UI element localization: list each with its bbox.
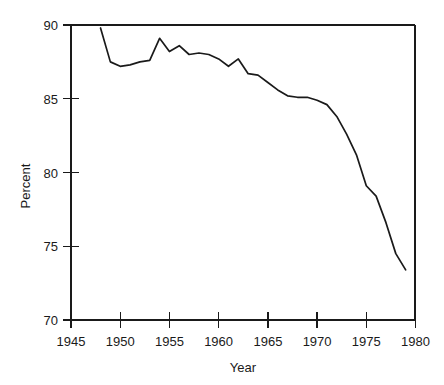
y-axis-title: Percent <box>18 163 33 208</box>
y-tick-label-70: 70 <box>44 313 58 328</box>
x-tick-label-1975: 1975 <box>352 334 381 349</box>
line-chart: 90 85 80 75 70 1945 1950 1955 1960 1965 … <box>0 0 444 385</box>
x-tick-label-1970: 1970 <box>303 334 332 349</box>
x-tick-label-1945: 1945 <box>57 334 86 349</box>
data-series-line <box>101 28 406 270</box>
x-axis-tick-labels: 1945 1950 1955 1960 1965 1970 1975 1980 <box>57 334 430 349</box>
x-tick-label-1980: 1980 <box>401 334 430 349</box>
y-tick-label-90: 90 <box>44 18 58 33</box>
y-tick-label-85: 85 <box>44 92 58 107</box>
y-tick-label-80: 80 <box>44 166 58 181</box>
chart-svg: 90 85 80 75 70 1945 1950 1955 1960 1965 … <box>0 0 444 385</box>
x-axis-title: Year <box>230 360 257 375</box>
y-tick-label-75: 75 <box>44 239 58 254</box>
y-axis-tick-labels: 90 85 80 75 70 <box>44 18 58 328</box>
x-tick-label-1965: 1965 <box>253 334 282 349</box>
x-tick-label-1950: 1950 <box>106 334 135 349</box>
plot-frame <box>71 25 415 320</box>
x-tick-label-1955: 1955 <box>155 334 184 349</box>
x-tick-label-1960: 1960 <box>204 334 233 349</box>
